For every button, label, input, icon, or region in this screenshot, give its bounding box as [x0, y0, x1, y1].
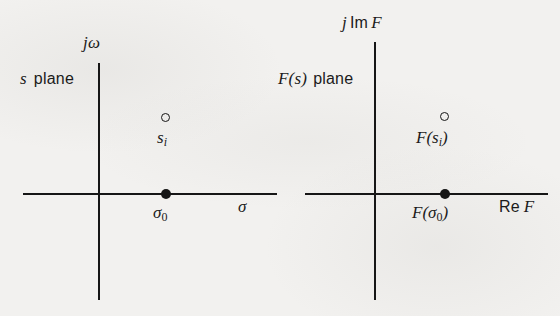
F-plane-real-axis: [305, 193, 548, 195]
F-plane-filled-dot-marker: [440, 189, 450, 199]
figure-canvas: jω σ splane si σ0 jImF ReF: [0, 0, 560, 316]
F-of-s-open: F(s: [416, 128, 439, 147]
s-plane-omega-symbol: ω: [88, 33, 100, 52]
F-plane-re-symbol: Re: [499, 198, 520, 215]
F-plane-imaginary-axis: [374, 42, 376, 300]
F-plane-real-axis-label: ReF: [499, 198, 534, 215]
s-plane-filled-dot-marker: [161, 189, 171, 199]
s-plane-title: splane: [20, 70, 74, 87]
s-plane-title-word: plane: [27, 70, 74, 87]
F-plane-imaginary-axis-label: jImF: [342, 14, 382, 31]
F-plane-filled-point-label: F(σ0): [412, 204, 448, 223]
F-of-s-close: ): [442, 128, 448, 147]
s-plane-filled-point-label: σ0: [153, 204, 167, 223]
s-plane-imaginary-axis: [98, 63, 100, 300]
s-plane-real-axis-label: σ: [238, 198, 247, 215]
F-of-sigma-close: ): [442, 203, 448, 222]
F-plane-panel: jImF ReF F(s)plane F(si) F(σ0): [280, 0, 560, 316]
F-plane-title: F(s)plane: [278, 70, 353, 87]
s-symbol: s: [157, 128, 164, 147]
F-plane-F-symbol: F: [368, 13, 382, 32]
F-of-sigma-open: F(σ: [412, 203, 436, 222]
F-plane-open-circle-marker: [440, 112, 449, 121]
F-plane-title-word: plane: [307, 70, 353, 87]
F-plane-open-point-label: F(si): [416, 129, 448, 148]
s-subscript: i: [164, 135, 167, 149]
s-plane-title-symbol: s: [20, 69, 27, 88]
s-plane-open-point-label: si: [157, 129, 167, 148]
s-plane-open-circle-marker: [161, 113, 170, 122]
s-plane-panel: jω σ splane si σ0: [0, 0, 280, 316]
F-plane-im-symbol: Im: [347, 14, 368, 31]
s-plane-imaginary-axis-label: jω: [83, 34, 100, 51]
F-plane-re-F-symbol: F: [520, 197, 535, 216]
sigma-subscript: 0: [161, 210, 167, 224]
F-plane-title-symbol: F(s): [278, 69, 307, 88]
s-plane-real-axis: [23, 193, 277, 195]
